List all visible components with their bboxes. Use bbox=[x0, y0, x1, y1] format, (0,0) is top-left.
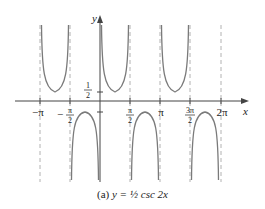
curve-branch-down-3 bbox=[192, 112, 219, 180]
figure-caption: (a) y = ½ csc 2x bbox=[0, 188, 265, 200]
x-tick-half-pi-den: 2 bbox=[128, 116, 132, 125]
x-tick-neg-half-pi-den: 2 bbox=[68, 116, 72, 125]
y-axis-label: y bbox=[91, 12, 97, 24]
x-axis-arrow-icon bbox=[241, 98, 249, 104]
curve-branch-down-2 bbox=[132, 112, 159, 180]
x-tick-three-half-pi-num: 3π bbox=[186, 106, 194, 115]
y-tick-half-num: 1 bbox=[86, 81, 90, 90]
y-axis-arrow-icon bbox=[97, 15, 103, 23]
x-tick-two-pi: 2π bbox=[216, 106, 228, 118]
caption-equation: y = ½ csc 2x bbox=[112, 188, 168, 200]
x-tick-three-half-pi-den: 2 bbox=[188, 116, 192, 125]
y-tick-half-den: 2 bbox=[86, 91, 90, 100]
csc-graph: y x 1 2 −π − π 2 π 2 π 3π 2 2π bbox=[0, 0, 265, 188]
curve-branch-up-3 bbox=[162, 25, 189, 92]
x-tick-neg-half-pi-num: π bbox=[68, 106, 72, 115]
x-axis-label: x bbox=[242, 105, 248, 117]
caption-prefix: (a) bbox=[97, 188, 109, 200]
curve-branch-up-1 bbox=[42, 25, 69, 92]
x-tick-pi: π bbox=[158, 106, 164, 118]
curve-branch-up-2 bbox=[102, 25, 129, 92]
x-tick-neg-pi: −π bbox=[32, 106, 44, 118]
svg-text:−: − bbox=[57, 108, 63, 120]
x-tick-half-pi-num: π bbox=[128, 106, 132, 115]
curve-branch-down-1 bbox=[72, 112, 99, 180]
